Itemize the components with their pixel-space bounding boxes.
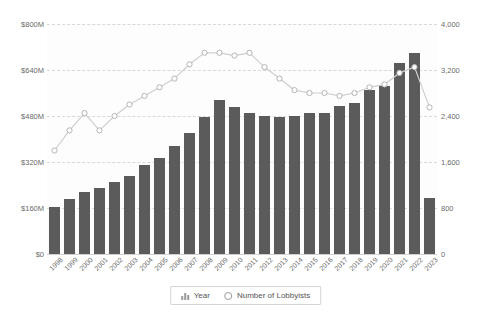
x-tick-label: 2018 <box>347 256 363 272</box>
legend-item-lobbyists[interactable]: Number of Lobbyists <box>224 291 310 300</box>
y-axis-left: $0$160M$320M$480M$640M$800M <box>0 24 44 254</box>
line-marker[interactable] <box>52 148 57 153</box>
line-marker[interactable] <box>427 105 432 110</box>
legend-item-year[interactable]: Year <box>181 291 210 300</box>
line-marker[interactable] <box>262 65 267 70</box>
x-tick-label: 2023 <box>422 256 438 272</box>
y-tick-left: $160M <box>21 204 44 213</box>
x-tick-label: 2000 <box>77 256 93 272</box>
line-marker[interactable] <box>157 85 162 90</box>
x-tick-label: 2007 <box>182 256 198 272</box>
legend-label-lobbyists: Number of Lobbyists <box>237 291 310 300</box>
line-marker[interactable] <box>112 113 117 118</box>
lobbyist-markers <box>52 50 432 153</box>
x-tick-label: 2004 <box>137 256 153 272</box>
x-tick-label: 2010 <box>227 256 243 272</box>
x-tick-label: 1998 <box>47 256 63 272</box>
line-marker[interactable] <box>67 128 72 133</box>
line-marker[interactable] <box>82 111 87 116</box>
x-tick-label: 2006 <box>167 256 183 272</box>
x-tick-label: 2020 <box>377 256 393 272</box>
x-tick-label: 2003 <box>122 256 138 272</box>
x-tick-label: 2008 <box>197 256 213 272</box>
line-marker[interactable] <box>97 128 102 133</box>
lobbyist-line-path <box>55 53 430 151</box>
line-marker[interactable] <box>277 76 282 81</box>
y-tick-left: $0 <box>36 250 44 259</box>
line-series <box>47 24 437 254</box>
x-tick-label: 1999 <box>62 256 78 272</box>
x-tick-label: 2005 <box>152 256 168 272</box>
circle-marker-icon <box>224 292 232 300</box>
line-marker[interactable] <box>367 85 372 90</box>
x-tick-label: 2013 <box>272 256 288 272</box>
y-tick-left: $800M <box>21 20 44 29</box>
line-marker[interactable] <box>202 50 207 55</box>
line-marker[interactable] <box>172 76 177 81</box>
x-tick-label: 2015 <box>302 256 318 272</box>
plot-area <box>47 24 437 254</box>
line-marker[interactable] <box>217 50 222 55</box>
y-tick-right: 2,400 <box>441 112 460 121</box>
x-tick-label: 2019 <box>362 256 378 272</box>
legend-label-year: Year <box>194 291 210 300</box>
x-tick-label: 2022 <box>407 256 423 272</box>
y-tick-right: 3,200 <box>441 66 460 75</box>
line-marker[interactable] <box>322 90 327 95</box>
x-tick-label: 2016 <box>317 256 333 272</box>
y-tick-right: 0 <box>441 250 445 259</box>
line-marker[interactable] <box>127 102 132 107</box>
line-marker[interactable] <box>382 82 387 87</box>
y-tick-right: 1,600 <box>441 158 460 167</box>
x-tick-label: 2021 <box>392 256 408 272</box>
y-tick-left: $640M <box>21 66 44 75</box>
y-tick-left: $320M <box>21 158 44 167</box>
line-marker[interactable] <box>187 62 192 67</box>
x-tick-label: 2017 <box>332 256 348 272</box>
line-marker[interactable] <box>292 88 297 93</box>
x-tick-label: 2009 <box>212 256 228 272</box>
x-tick-label: 2001 <box>92 256 108 272</box>
y-tick-left: $480M <box>21 112 44 121</box>
y-axis-right: 08001,6002,4003,2004,000 <box>441 24 489 254</box>
x-tick-label: 2011 <box>243 256 259 272</box>
x-axis-line <box>47 254 437 255</box>
line-marker[interactable] <box>352 90 357 95</box>
y-tick-right: 4,000 <box>441 20 460 29</box>
line-marker[interactable] <box>412 65 417 70</box>
x-tick-label: 2002 <box>107 256 123 272</box>
x-tick-label: 2012 <box>257 256 273 272</box>
line-marker[interactable] <box>142 93 147 98</box>
chart-container: $0$160M$320M$480M$640M$800M 08001,6002,4… <box>0 0 491 319</box>
line-marker[interactable] <box>397 70 402 75</box>
bar-icon <box>181 292 189 300</box>
x-tick-label: 2014 <box>287 256 303 272</box>
line-marker[interactable] <box>232 53 237 58</box>
y-tick-right: 800 <box>441 204 454 213</box>
chart-legend[interactable]: Year Number of Lobbyists <box>170 286 322 305</box>
line-marker[interactable] <box>307 90 312 95</box>
line-marker[interactable] <box>247 50 252 55</box>
line-marker[interactable] <box>337 93 342 98</box>
